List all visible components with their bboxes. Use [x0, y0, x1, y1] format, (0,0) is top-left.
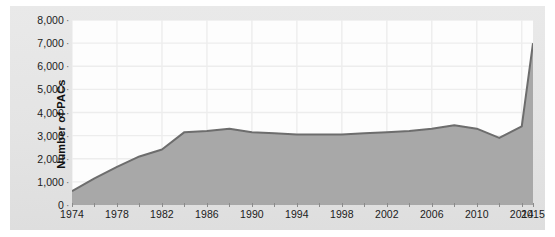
x-tick-mark — [139, 203, 140, 207]
x-tick-label: 2010 — [465, 208, 489, 220]
x-tick-mark — [342, 203, 343, 207]
y-tick-mark: · — [66, 38, 69, 49]
x-tick-mark — [297, 203, 298, 207]
x-tick-mark — [533, 203, 534, 207]
y-tick-label: 6,000 — [37, 60, 64, 72]
y-tick-mark: · — [66, 153, 69, 164]
y-tick-label: 2,000 — [37, 153, 64, 165]
y-axis-tick-labels: 0·1,000·2,000·3,000·4,000·5,000·6,000·7,… — [0, 0, 64, 237]
y-tick-mark: · — [66, 15, 69, 26]
x-tick-mark — [432, 203, 433, 207]
x-tick-mark — [387, 203, 388, 207]
x-tick-mark — [184, 203, 185, 207]
x-tick-mark — [477, 203, 478, 207]
x-tick-mark — [162, 203, 163, 207]
area-fill-path — [72, 43, 533, 205]
x-tick-mark — [72, 203, 73, 207]
y-tick-label: 5,000 — [37, 83, 64, 95]
y-tick-mark: · — [66, 61, 69, 72]
y-tick-mark: · — [66, 176, 69, 187]
x-tick-mark — [274, 203, 275, 207]
x-axis-tick-labels: 1974197819821986199019941998200220062010… — [0, 208, 555, 232]
x-tick-label: 1994 — [285, 208, 309, 220]
x-tick-mark — [409, 203, 410, 207]
x-tick-label: 1986 — [195, 208, 219, 220]
y-tick-label: 7,000 — [37, 37, 64, 49]
x-tick-mark — [117, 203, 118, 207]
x-tick-mark — [207, 203, 208, 207]
x-tick-label: 1982 — [150, 208, 174, 220]
x-tick-mark — [454, 203, 455, 207]
x-tick-label: 1998 — [330, 208, 354, 220]
x-tick-label: 1974 — [60, 208, 84, 220]
x-tick-mark — [522, 203, 523, 207]
x-tick-mark — [252, 203, 253, 207]
x-tick-mark — [499, 203, 500, 207]
y-tick-label: 8,000 — [37, 14, 64, 26]
y-tick-label: 1,000 — [37, 176, 64, 188]
x-tick-mark — [94, 203, 95, 207]
y-tick-mark: · — [66, 107, 69, 118]
y-tick-label: 3,000 — [37, 130, 64, 142]
y-tick-mark: · — [66, 84, 69, 95]
pac-count-area-chart: Number of PACs 0·1,000·2,000·3,000·4,000… — [0, 0, 555, 237]
x-tick-label: 2002 — [375, 208, 399, 220]
y-tick-label: 4,000 — [37, 107, 64, 119]
x-tick-mark — [229, 203, 230, 207]
x-tick-label: 2015 — [521, 208, 545, 220]
area-series-svg — [72, 20, 533, 205]
x-tick-label: 1978 — [105, 208, 129, 220]
plot-area — [72, 20, 533, 205]
y-tick-mark: · — [66, 130, 69, 141]
x-tick-mark — [364, 203, 365, 207]
x-tick-label: 1990 — [240, 208, 264, 220]
x-tick-label: 2006 — [420, 208, 444, 220]
x-tick-mark — [319, 203, 320, 207]
